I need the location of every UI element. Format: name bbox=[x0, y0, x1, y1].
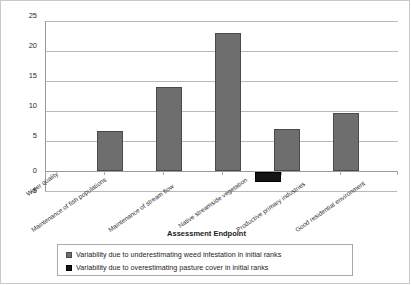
x-tick-0 bbox=[45, 171, 46, 175]
plot-area bbox=[45, 21, 398, 171]
bar-primary-industries-gray bbox=[274, 129, 300, 171]
y-axis-tick-10: 10 bbox=[11, 102, 37, 110]
x-category-label-residential: Good residential environment bbox=[294, 180, 366, 233]
x-axis-title: Assessment Endpoint bbox=[1, 229, 411, 238]
chart-frame: 25 20 15 10 5 0 -5 Water quality Mainten… bbox=[0, 0, 410, 284]
y-axis-tick-15: 15 bbox=[11, 72, 37, 80]
x-tick-4 bbox=[281, 171, 282, 175]
x-tick-5 bbox=[340, 171, 341, 175]
bar-stream-flow-gray bbox=[156, 87, 182, 171]
bar-fish-populations-gray bbox=[97, 131, 123, 171]
bar-primary-industries-black bbox=[255, 172, 281, 182]
y-axis-tick-25: 25 bbox=[11, 12, 37, 20]
x-category-label-water-quality: Water quality bbox=[25, 171, 59, 198]
legend-item-underestimating: Variability due to underestimating weed … bbox=[66, 248, 352, 261]
x-category-label-streamside-vegetation: Native streamside vegetation bbox=[177, 177, 248, 230]
gridline-25 bbox=[46, 21, 398, 22]
legend-label-overestimating: Variability due to overestimating pastur… bbox=[76, 263, 268, 272]
y-axis-tick-5: 5 bbox=[11, 132, 37, 140]
bar-streamside-veg-gray bbox=[215, 33, 241, 171]
x-tick-2 bbox=[163, 171, 164, 175]
black-swatch-icon bbox=[66, 265, 72, 271]
bar-residential-gray bbox=[333, 113, 359, 171]
y-axis-tick-0: 0 bbox=[11, 167, 37, 175]
x-tick-3 bbox=[222, 171, 223, 175]
x-tick-1 bbox=[104, 171, 105, 175]
legend-label-underestimating: Variability due to underestimating weed … bbox=[76, 250, 281, 259]
legend-item-overestimating: Variability due to overestimating pastur… bbox=[66, 261, 352, 274]
chart-legend: Variability due to underestimating weed … bbox=[57, 244, 353, 276]
y-axis-tick-20: 20 bbox=[11, 42, 37, 50]
x-tick-6 bbox=[397, 171, 398, 175]
gray-swatch-icon bbox=[66, 252, 72, 258]
